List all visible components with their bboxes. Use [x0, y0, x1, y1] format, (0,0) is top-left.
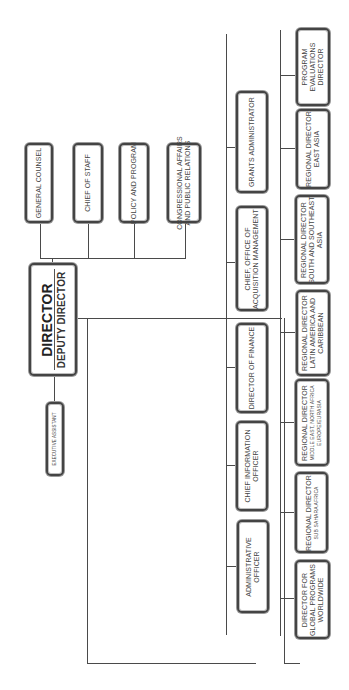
congressional-affairs-box: CONGRESSIONAL AFFAIRS AND PUBLIC RELATIO…: [167, 143, 201, 223]
regional-south-southeast-asia-box: REGIONAL DIRECTOR SOUTH AND SOUTHEAST AS…: [295, 195, 329, 284]
general-counsel-box: GENERAL COUNSEL: [25, 143, 53, 223]
box-label: REGIONAL DIRECTOR: [305, 111, 313, 187]
box-label: ACQUISITION MANAGEMENT: [252, 209, 260, 309]
regional-sub-sahara-africa-box: REGIONAL DIRECTOR SUB SAHARA AFRICA: [295, 472, 328, 553]
box-label: GENERAL COUNSEL: [35, 148, 43, 218]
box-label: REGIONAL DIRECTOR: [304, 475, 312, 551]
box-label: LATIN AMERICA AND: [309, 295, 317, 371]
box-label: OFFICER: [252, 429, 260, 502]
chief-information-officer-box: CHIEF INFORMATION OFFICER: [236, 421, 268, 511]
box-label: EXECUTIVE ASSISTANT: [52, 412, 58, 465]
box-label: ADMINISTRATIVE: [245, 537, 253, 597]
box-label: EVALUATIONS: [309, 42, 317, 91]
box-label: REGIONAL DIRECTOR: [300, 196, 308, 283]
box-label: DIRECTOR OF FINANCE: [248, 327, 256, 410]
director-of-finance-box: DIRECTOR OF FINANCE: [236, 323, 268, 413]
box-label: EUROPE/EURASIA: [316, 385, 323, 461]
box-label: REGIONAL DIRECTOR: [301, 295, 309, 371]
box-label: POLICY AND PROGRAM: [130, 142, 138, 224]
box-label: OFFICER: [253, 537, 261, 597]
regional-latin-america-box: REGIONAL DIRECTOR LATIN AMERICA AND CARI…: [296, 290, 330, 376]
box-label: GRANTS ADMINISTRATOR: [248, 97, 256, 187]
box-label: CHIEF INFORMATION: [244, 429, 252, 502]
box-label: DIRECTOR FOR: [301, 563, 309, 635]
box-label: SOUTH AND SOUTHEAST: [308, 196, 316, 283]
box-label: WORLDWIDE: [317, 563, 325, 635]
box-label: DIRECTOR: [317, 42, 325, 91]
regional-middle-east-box: REGIONAL DIRECTOR MIDDLE EAST, NORTH AFR…: [295, 379, 329, 466]
director-to-assistant-line: [54, 375, 55, 403]
program-evaluations-box: PROGRAM EVALUATIONS DIRECTOR: [296, 28, 330, 106]
deputy-director-title: DEPUTY DIRECTOR: [55, 271, 68, 368]
director-box: DIRECTOR DEPUTY DIRECTOR: [29, 263, 77, 376]
regional-east-asia-box: REGIONAL DIRECTOR EAST ASIA: [296, 109, 330, 189]
box-label: PROGRAM: [301, 42, 309, 91]
box-label: MIDDLE EAST, NORTH AFRICA: [309, 385, 316, 461]
box-label: CONGRESSIONAL AFFAIRS: [176, 136, 184, 230]
box-label: GLOBAL PROGRAMS: [309, 563, 317, 635]
box-label: AND PUBLIC RELATIONS: [184, 136, 192, 230]
box-label: SUB SAHARA AFRICA: [312, 475, 319, 551]
box-label: CHIEF OF STAFF: [84, 154, 92, 212]
box-label: EAST ASIA: [313, 111, 321, 187]
administrative-officer-box: ADMINISTRATIVE OFFICER: [237, 520, 269, 613]
executive-assistant-box: EXECUTIVE ASSISTANT: [46, 402, 64, 476]
policy-and-program-box: POLICY AND PROGRAM: [119, 143, 149, 223]
chief-of-staff-box: CHIEF OF STAFF: [73, 143, 103, 223]
box-label: CARIBBEAN: [317, 295, 325, 371]
grants-administrator-box: GRANTS ADMINISTRATOR: [236, 91, 268, 193]
box-label: CHIEF, OFFICE OF: [244, 209, 252, 309]
director-title: DIRECTOR: [39, 271, 55, 368]
global-programs-box: DIRECTOR FOR GLOBAL PROGRAMS WORLDWIDE: [295, 560, 330, 639]
box-label: ASIA: [316, 196, 324, 283]
chief-acquisition-box: CHIEF, OFFICE OF ACQUISITION MANAGEMENT: [236, 206, 268, 311]
box-label: REGIONAL DIRECTOR: [301, 385, 309, 461]
